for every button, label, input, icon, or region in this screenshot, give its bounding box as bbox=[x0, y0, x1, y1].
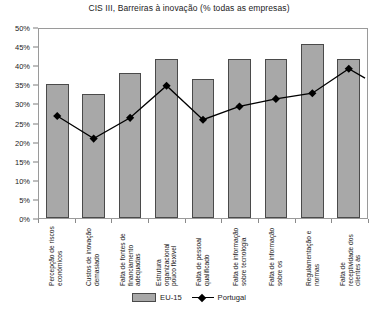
y-axis-tick-label: 10% bbox=[15, 176, 30, 185]
legend-bar-swatch-icon bbox=[132, 293, 156, 302]
plot-area bbox=[38, 28, 368, 219]
x-axis-category-label: Falta de fontes de financiamento adequad… bbox=[118, 224, 141, 286]
y-axis-tick-label: 25% bbox=[15, 119, 30, 128]
x-axis-category-label: Regulamentação e normas bbox=[305, 224, 320, 286]
diamond-marker-icon[interactable] bbox=[235, 102, 243, 110]
y-axis-tick-label: 0% bbox=[19, 215, 30, 224]
x-axis-labels: Percepção de riscos económicosCustos de … bbox=[38, 224, 368, 288]
chart-container: CIS III, Barreiras à inovação (% todas a… bbox=[0, 0, 378, 315]
x-axis-label-slot: Falta de informação sobre tecnologia bbox=[221, 224, 258, 288]
legend-line-swatch-icon bbox=[192, 294, 214, 301]
x-axis-label-slot: Custos de inovação demasiado bbox=[75, 224, 112, 288]
x-axis-tick-mark bbox=[185, 219, 186, 223]
legend-label-portugal: Portugal bbox=[218, 293, 246, 302]
y-axis-tick-label: 50% bbox=[15, 24, 30, 33]
diamond-marker-icon[interactable] bbox=[308, 89, 316, 97]
y-axis-tick-label: 45% bbox=[15, 43, 30, 52]
diamond-marker-icon[interactable] bbox=[53, 112, 61, 120]
y-axis-tick-label: 40% bbox=[15, 62, 30, 71]
y-axis-tick-label: 20% bbox=[15, 138, 30, 147]
y-axis-tick-label: 30% bbox=[15, 100, 30, 109]
x-axis-category-label: Percepção de riscos económicos bbox=[49, 224, 64, 286]
x-axis-label-slot: Falta de informação sobre os bbox=[258, 224, 295, 288]
x-axis-category-label: Custos de inovação demasiado bbox=[85, 224, 100, 286]
x-axis-tick-mark bbox=[75, 219, 76, 223]
x-axis-category-label: Falta de informação sobre tecnologia bbox=[232, 224, 247, 286]
x-axis-label-slot: Regulamentação e normas bbox=[295, 224, 332, 288]
x-axis-category-label: Falta de pessoal qualificado bbox=[195, 224, 210, 286]
y-axis-tick-label: 5% bbox=[19, 195, 30, 204]
y-axis: 50%45%40%35%30%25%20%15%10%5%0% bbox=[0, 28, 38, 219]
portugal-line-path bbox=[57, 69, 365, 139]
x-axis-category-label: Falta de informação sobre os bbox=[269, 224, 284, 286]
x-axis-label-slot: Falta de pessoal qualificado bbox=[185, 224, 222, 288]
diamond-marker-icon[interactable] bbox=[272, 95, 280, 103]
x-axis-tick-mark bbox=[221, 219, 222, 223]
x-axis-category-label: Estrutura organizacional pouco flexível bbox=[155, 224, 178, 286]
diamond-marker-icon[interactable] bbox=[345, 65, 353, 73]
diamond-marker-icon[interactable] bbox=[90, 135, 98, 143]
x-axis-tick-mark bbox=[111, 219, 112, 223]
legend-item-portugal: Portugal bbox=[192, 293, 246, 302]
x-axis-label-slot: Percepção de riscos económicos bbox=[38, 224, 75, 288]
legend-label-eu15: EU-15 bbox=[160, 293, 182, 302]
x-axis-label-slot: Estrutura organizacional pouco flexível bbox=[148, 224, 185, 288]
x-axis-tick-mark bbox=[368, 219, 369, 223]
x-axis-tick-mark bbox=[331, 219, 332, 223]
chart-title: CIS III, Barreiras à inovação (% todas a… bbox=[0, 3, 378, 13]
x-axis-label-slot: Falta de receptividade dos clientes às bbox=[331, 224, 368, 288]
x-axis-label-slot: Falta de fontes de financiamento adequad… bbox=[111, 224, 148, 288]
y-axis-tick-label: 15% bbox=[15, 157, 30, 166]
y-axis-tick-label: 35% bbox=[15, 81, 30, 90]
chart-legend: EU-15 Portugal bbox=[0, 293, 378, 302]
line-series-portugal bbox=[39, 29, 367, 218]
x-axis-category-label: Falta de receptividade dos clientes às bbox=[338, 224, 361, 286]
legend-item-eu15: EU-15 bbox=[132, 293, 182, 302]
x-axis-tick-mark bbox=[148, 219, 149, 223]
x-axis-tick-mark bbox=[38, 219, 39, 223]
x-axis-tick-mark bbox=[258, 219, 259, 223]
x-axis-tick-mark bbox=[295, 219, 296, 223]
